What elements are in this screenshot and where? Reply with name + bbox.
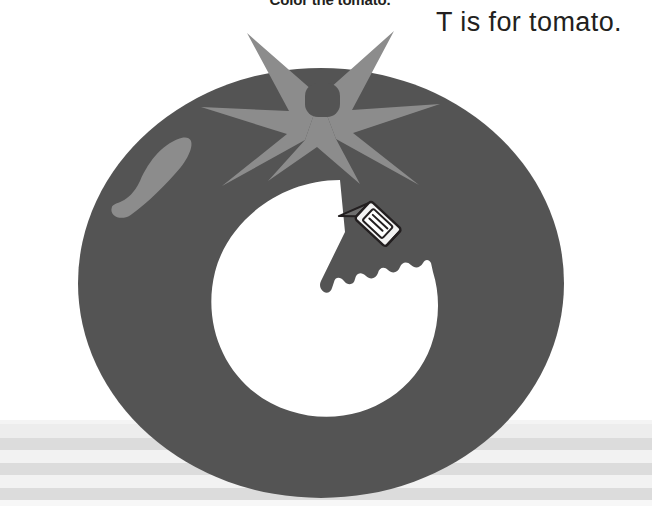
phrase-text: T is for tomato. — [436, 7, 622, 38]
tomato-stem-nub — [305, 83, 340, 117]
coloring-page: Color the tomato. T is for tomato. — [0, 0, 660, 522]
tomato-illustration — [0, 0, 660, 522]
